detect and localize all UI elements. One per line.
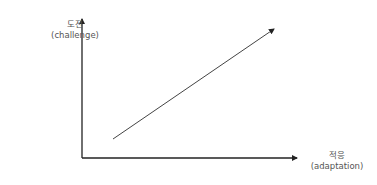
y-axis-label-english: (challenge) <box>40 30 110 41</box>
y-axis-label-korean: 도전 <box>40 19 110 30</box>
x-axis-label: 적응 (adaptation) <box>302 150 372 172</box>
y-axis-label: 도전 (challenge) <box>40 19 110 41</box>
x-axis-label-english: (adaptation) <box>302 161 372 172</box>
x-axis-label-korean: 적응 <box>302 150 372 161</box>
trend-line-arrow <box>113 29 274 139</box>
